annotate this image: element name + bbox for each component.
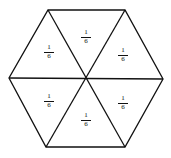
numerator: 1 xyxy=(47,43,51,51)
fraction-label-lower-right: 1 6 xyxy=(116,95,130,111)
fraction-label-upper-right: 1 6 xyxy=(116,47,130,63)
denominator: 6 xyxy=(47,52,51,60)
fraction-label-lower-left: 1 6 xyxy=(42,93,56,109)
fraction-label-bottom: 1 6 xyxy=(79,112,93,128)
denominator: 6 xyxy=(84,37,88,45)
numerator: 1 xyxy=(47,92,51,100)
hexagon-diagram: 1 6 1 6 1 6 1 6 1 6 1 6 xyxy=(0,0,171,158)
denominator: 6 xyxy=(121,55,125,63)
hexagon-figure xyxy=(0,0,171,158)
numerator: 1 xyxy=(84,111,88,119)
numerator: 1 xyxy=(84,28,88,36)
denominator: 6 xyxy=(121,103,125,111)
numerator: 1 xyxy=(121,94,125,102)
denominator: 6 xyxy=(47,101,51,109)
fraction-label-top: 1 6 xyxy=(79,29,93,45)
numerator: 1 xyxy=(121,46,125,54)
fraction-label-upper-left: 1 6 xyxy=(42,44,56,60)
denominator: 6 xyxy=(84,120,88,128)
